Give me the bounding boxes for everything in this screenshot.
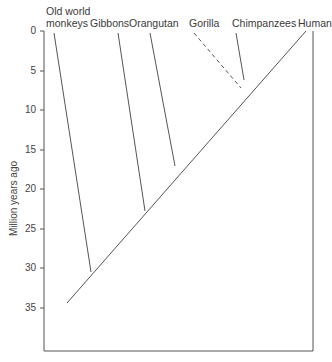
y-tick-0: 0 — [6, 25, 36, 36]
taxon-label-chimpanzees: Chimpanzees — [232, 17, 296, 29]
taxon-label-orangutan: Orangutan — [129, 17, 179, 29]
taxon-label-human: Human — [298, 17, 332, 29]
taxon-label-old-world-line1: Old world — [46, 5, 90, 17]
y-tick-5: 5 — [6, 65, 36, 76]
y-tick-10: 10 — [6, 104, 36, 115]
branch-gibbons — [118, 33, 145, 211]
y-tick-35: 35 — [6, 302, 36, 313]
branch-chimpanzees — [236, 33, 244, 80]
taxon-label-gorilla: Gorilla — [189, 17, 219, 29]
y-axis-label: Million years ago — [8, 161, 19, 236]
taxon-label-old-world-line2: monkeys — [46, 17, 88, 29]
main-trunk-line — [67, 31, 306, 303]
taxon-label-gibbons: Gibbons — [90, 17, 129, 29]
branch-gorilla — [194, 33, 241, 88]
branch-old-world-monkeys — [54, 33, 91, 272]
y-tick-15: 15 — [6, 144, 36, 155]
branch-orangutan — [150, 33, 175, 166]
y-tick-30: 30 — [6, 262, 36, 273]
